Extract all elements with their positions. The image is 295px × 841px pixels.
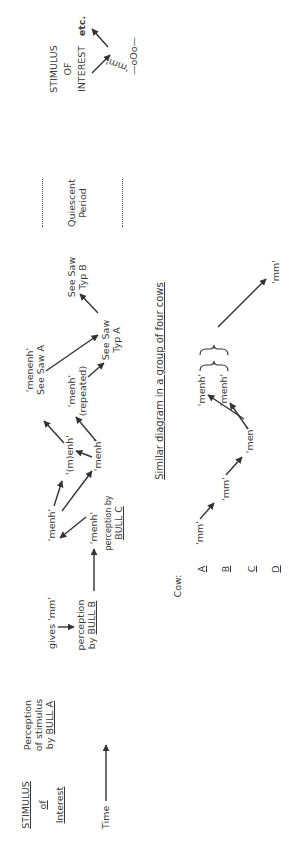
- arrow-stimulus-to-mm: [92, 55, 110, 73]
- diagram-page: STIMULUS of Interest Perception of stimu…: [0, 0, 295, 841]
- arrow-cow-b-to-c: [226, 457, 242, 475]
- arrow-brace-to-mm: [218, 279, 266, 327]
- arrow-m-enh-to-menenh: [44, 421, 64, 443]
- arrow-menh-to-m-enh: [54, 481, 62, 506]
- arrow-menh-to-menh-middle: [62, 471, 92, 511]
- arrow-menh-lower-to-upper: [60, 517, 86, 538]
- arrow-see-saw-a-to-typ-a: [46, 335, 98, 371]
- arrow-menh-middle-to-repeated: [76, 417, 96, 441]
- arrows-layer: [0, 0, 295, 841]
- brace-right-1: [200, 361, 228, 371]
- arrow-cow-a-to-b: [200, 503, 214, 519]
- brace-right-2: [200, 345, 228, 355]
- arrow-repeated-to-typ-a: [88, 363, 104, 377]
- arrow-menh-middle-to-m-enh: [76, 451, 92, 457]
- arrow-typ-a-to-typ-b: [80, 294, 98, 313]
- arrow-cow-c-to-menh-2: [230, 403, 248, 429]
- arrow-mm-to-etc: [92, 29, 108, 47]
